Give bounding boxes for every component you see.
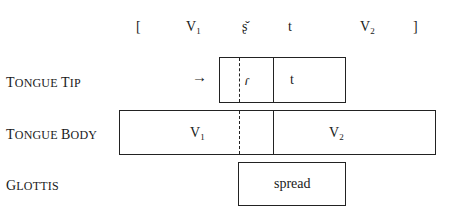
arrow-right-icon: → — [192, 70, 207, 85]
tongue-body-dashed-boundary — [239, 111, 240, 154]
tongue-body-divider — [273, 111, 274, 154]
tongue-tip-cell-t: t — [290, 73, 294, 87]
segment-t: t — [288, 20, 292, 34]
tongue-tip-divider — [273, 58, 274, 102]
segment-affricate: ʂ̌ — [242, 20, 247, 34]
tongue-body-cell-v1: V1 — [190, 126, 205, 144]
close-bracket: ] — [413, 20, 418, 34]
open-bracket: [ — [136, 20, 141, 34]
tongue-tip-cell-tap: ɾ — [244, 74, 249, 88]
tier-label-glottis: GLOTTIS — [6, 178, 59, 194]
tier-label-tongue-tip: TONGUE TIP — [6, 75, 81, 91]
tongue-tip-dashed-boundary — [239, 58, 240, 102]
glottis-cell-spread: spread — [274, 177, 311, 191]
tongue-body-cell-v2: V2 — [329, 126, 344, 144]
segment-v1: V1 — [186, 20, 201, 38]
tongue-body-box — [119, 110, 436, 155]
segment-v2: V2 — [360, 20, 375, 38]
tier-label-tongue-body: TONGUE BODY — [6, 127, 97, 143]
